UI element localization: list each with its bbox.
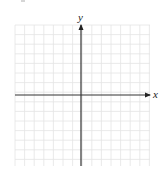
- x-axis-arrow-icon: [145, 93, 151, 98]
- coordinate-plane: [0, 0, 163, 175]
- y-axis-label: y: [78, 12, 83, 23]
- x-axis-label: x: [153, 89, 158, 100]
